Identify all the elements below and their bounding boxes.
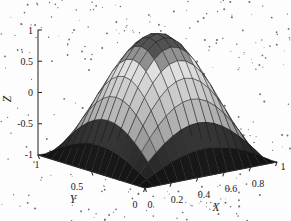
scan-noise-dot — [187, 1, 188, 2]
scan-noise-dot — [206, 13, 208, 15]
scan-noise-dot — [126, 25, 127, 26]
scan-noise-dot — [240, 128, 241, 129]
scan-noise-dot — [119, 33, 120, 34]
scan-noise-dot — [271, 17, 273, 19]
scan-noise-dot — [264, 47, 265, 48]
scan-noise-dot — [93, 9, 95, 11]
scan-noise-dot — [256, 136, 257, 137]
scan-noise-dot — [153, 206, 154, 207]
scan-noise-dot — [91, 2, 93, 4]
scan-noise-dot — [276, 33, 278, 35]
scan-noise-dot — [289, 37, 291, 39]
scan-noise-dot — [91, 54, 93, 56]
x-tick-label: 0.4 — [198, 189, 211, 200]
scan-noise-dot — [5, 67, 6, 68]
scan-noise-dot — [251, 59, 252, 60]
scan-noise-dot — [248, 129, 249, 130]
scan-noise-dot — [13, 194, 14, 195]
scan-noise-dot — [87, 26, 88, 27]
scan-noise-dot — [276, 44, 278, 46]
scan-noise-dot — [177, 190, 179, 192]
z-tick-label: 0 — [28, 87, 33, 98]
scan-noise-dot — [17, 49, 19, 51]
x-tick-label: 0 — [148, 199, 153, 210]
scan-noise-dot — [36, 3, 38, 5]
x-tick-label: 0.2 — [171, 194, 184, 205]
scan-noise-dot — [51, 16, 53, 18]
scan-noise-dot — [259, 93, 261, 95]
scan-noise-dot — [146, 210, 147, 211]
scan-noise-dot — [10, 133, 11, 134]
scan-noise-dot — [67, 43, 69, 45]
scan-noise-dot — [54, 114, 55, 115]
scan-noise-dot — [236, 178, 237, 179]
scan-noise-dot — [57, 7, 58, 8]
scan-noise-dot — [80, 210, 82, 212]
scan-noise-dot — [255, 69, 256, 70]
scan-noise-dot — [217, 11, 218, 12]
scan-noise-dot — [282, 147, 283, 148]
scan-noise-dot — [27, 202, 29, 204]
scan-noise-dot — [124, 30, 125, 31]
scan-noise-dot — [116, 30, 117, 31]
scan-noise-dot — [262, 67, 263, 68]
scan-noise-dot — [190, 204, 191, 205]
y-tick-label: 0 — [133, 199, 138, 210]
scan-noise-dot — [206, 202, 207, 203]
scan-noise-dot — [209, 46, 211, 48]
scan-noise-dot — [115, 208, 117, 210]
scan-noise-dot — [31, 79, 32, 80]
scan-noise-dot — [208, 50, 209, 51]
scan-noise-dot — [101, 47, 103, 49]
scan-noise-dot — [1, 33, 2, 34]
scan-noise-dot — [90, 58, 92, 60]
scan-noise-dot — [104, 189, 106, 191]
scan-noise-dot — [201, 186, 203, 188]
scan-noise-dot — [72, 32, 73, 33]
scan-noise-dot — [196, 60, 198, 62]
scan-noise-dot — [41, 177, 42, 178]
scan-noise-dot — [224, 105, 226, 107]
scan-noise-dot — [189, 27, 191, 29]
scan-noise-dot — [287, 14, 288, 15]
z-tick-labels: 1 0.5 0 -0.5 -1 — [17, 25, 33, 160]
scan-noise-dot — [186, 10, 187, 11]
scan-noise-dot — [49, 2, 50, 3]
scan-noise-dot — [88, 208, 90, 210]
scan-noise-dot — [262, 5, 263, 6]
scan-noise-dot — [281, 134, 283, 136]
scan-noise-dot — [158, 24, 160, 26]
scan-noise-dot — [101, 190, 103, 192]
x-tick-label: 0.6 — [225, 183, 238, 194]
scan-noise-dot — [238, 69, 239, 70]
scan-noise-dot — [200, 201, 201, 202]
scan-noise-dot — [81, 51, 83, 53]
scan-noise-dot — [132, 30, 133, 31]
scan-noise-dot — [27, 4, 29, 6]
scan-noise-dot — [203, 17, 205, 19]
scan-noise-dot — [1, 204, 2, 205]
scan-noise-dot — [253, 142, 255, 144]
scan-noise-dot — [137, 193, 139, 195]
scan-noise-dot — [67, 45, 68, 46]
z-axis-label: Z — [1, 95, 13, 102]
scan-noise-dot — [7, 117, 8, 118]
scan-noise-dot — [244, 52, 245, 53]
scan-noise-dot — [164, 26, 165, 27]
scan-noise-dot — [51, 60, 53, 62]
scan-noise-dot — [24, 12, 26, 14]
scan-noise-dot — [125, 27, 126, 28]
scan-noise-dot — [239, 173, 241, 175]
scan-noise-dot — [84, 58, 86, 60]
scan-noise-dot — [272, 150, 273, 151]
scan-noise-dot — [272, 142, 273, 143]
scan-noise-dot — [238, 205, 240, 207]
scan-noise-dot — [220, 198, 221, 199]
scan-noise-dot — [265, 57, 267, 59]
scan-noise-dot — [79, 20, 80, 21]
z-tick-label: 1 — [28, 25, 33, 36]
scan-noise-dot — [185, 38, 186, 39]
scan-noise-dot — [219, 184, 221, 186]
scan-noise-dot — [244, 54, 245, 55]
scan-noise-dot — [10, 17, 11, 18]
